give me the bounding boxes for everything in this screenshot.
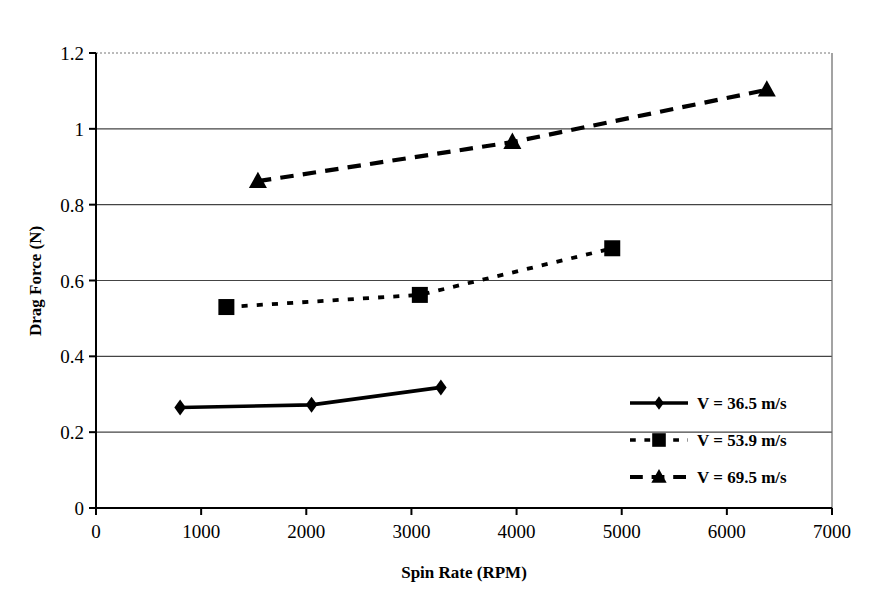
x-tick-label: 3000 (392, 521, 430, 542)
legend-label: V = 69.5 m/s (697, 468, 787, 487)
legend-label: V = 36.5 m/s (697, 394, 787, 413)
y-tick-label: 0.4 (60, 346, 84, 367)
y-tick-label: 0 (75, 498, 85, 519)
data-point-square (604, 240, 620, 256)
data-point-square (652, 433, 666, 447)
data-point-square (218, 299, 234, 315)
y-axis-title: Drag Force (N) (26, 226, 45, 336)
x-tick-label: 2000 (287, 521, 325, 542)
x-axis-title: Spin Rate (RPM) (401, 563, 527, 582)
legend-label: V = 53.9 m/s (697, 431, 787, 450)
x-tick-label: 6000 (708, 521, 746, 542)
y-tick-label: 1 (75, 119, 85, 140)
y-tick-label: 0.2 (60, 422, 84, 443)
x-tick-label: 7000 (813, 521, 851, 542)
y-tick-label: 0.6 (60, 271, 84, 292)
y-tick-label: 0.8 (60, 195, 84, 216)
x-tick-label: 0 (91, 521, 101, 542)
x-tick-label: 5000 (603, 521, 641, 542)
x-tick-label: 1000 (182, 521, 220, 542)
plot-background (0, 0, 881, 608)
chart-canvas: 00.20.40.60.811.2 0100020003000400050006… (0, 0, 881, 608)
y-tick-label: 1.2 (60, 43, 84, 64)
data-point-square (412, 287, 428, 303)
chart-figure: 00.20.40.60.811.2 0100020003000400050006… (0, 0, 881, 608)
x-tick-label: 4000 (498, 521, 536, 542)
